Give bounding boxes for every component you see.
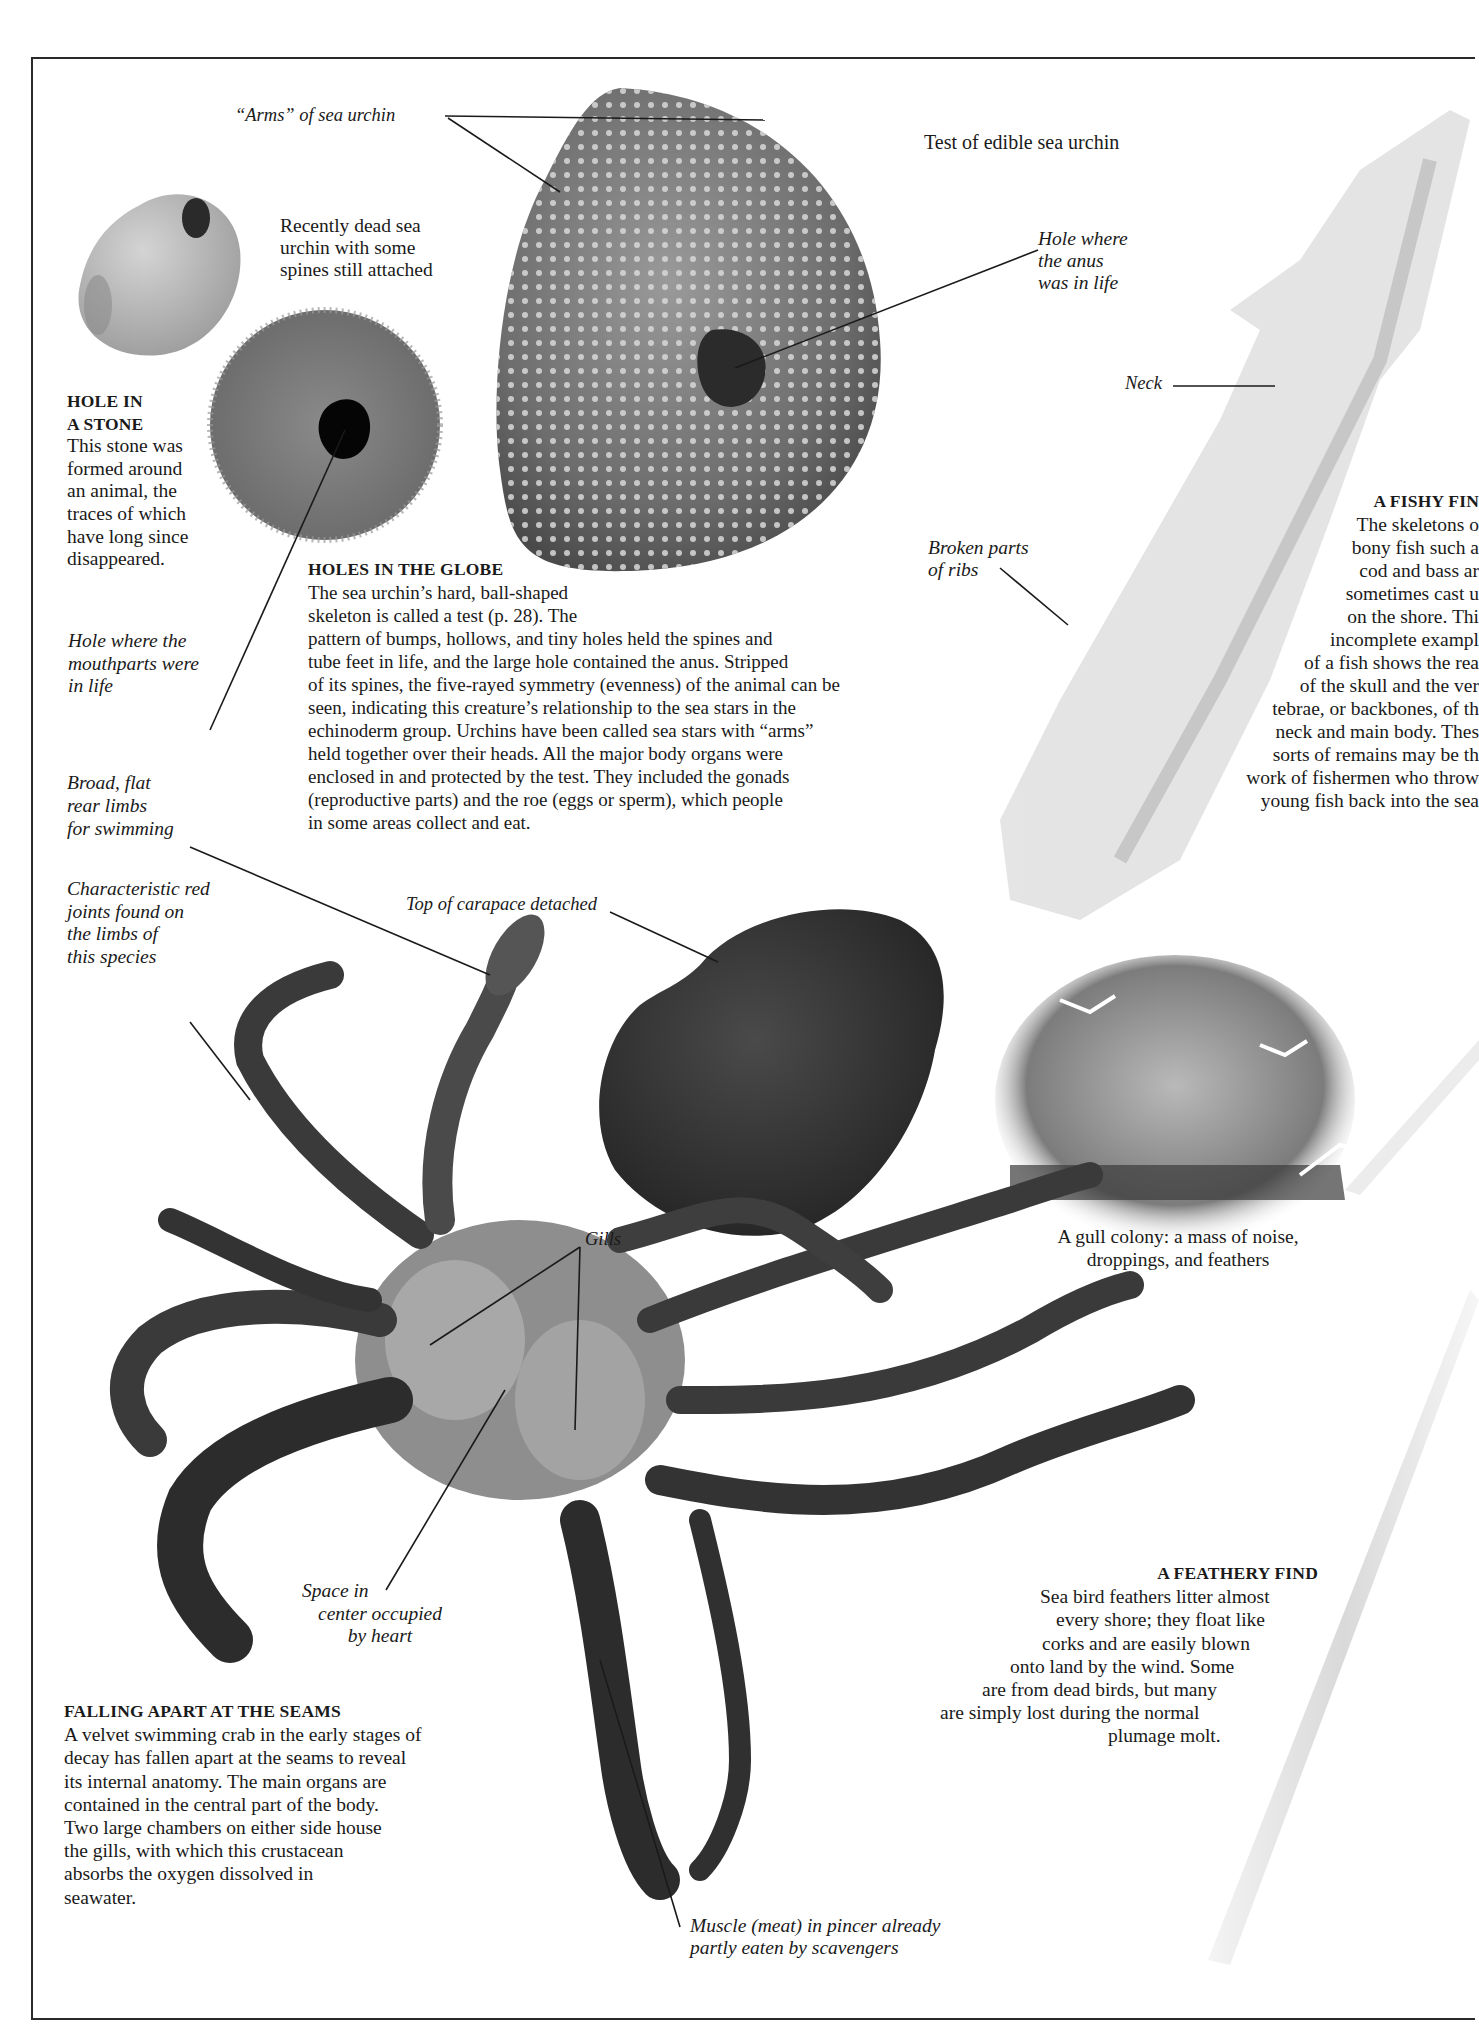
- label-muscle-in-pincer: Muscle (meat) in pincer already partly e…: [690, 1915, 941, 1959]
- section-heading: A FEATHERY FIND: [930, 1562, 1330, 1585]
- label-space-in-center: Space in center occupied by heart: [290, 1580, 470, 1648]
- label-arms-of-sea-urchin: “Arms” of sea urchin: [235, 104, 395, 126]
- section-falling-apart-at-the-seams: FALLING APART AT THE SEAMS A velvet swim…: [64, 1700, 421, 1909]
- gull-colony-image: [995, 955, 1375, 1245]
- label-hole-where-anus: Hole where the anus was in life: [1038, 228, 1128, 294]
- section-heading: HOLES IN THE GLOBE: [308, 558, 840, 581]
- carapace-image: [599, 909, 944, 1236]
- section-heading: A STONE: [67, 413, 188, 436]
- section-heading: A FISHY FIN: [1150, 490, 1479, 513]
- label-top-of-carapace-detached: Top of carapace detached: [406, 893, 597, 915]
- label-recently-dead-urchin: Recently dead sea urchin with some spine…: [280, 215, 433, 281]
- stone-image: [78, 194, 240, 355]
- label-hole-where-mouthparts: Hole where the mouthparts were in life: [68, 630, 199, 698]
- small-urchin-image: [210, 310, 440, 540]
- section-holes-in-the-globe: HOLES IN THE GLOBE The sea urchin’s hard…: [308, 558, 840, 834]
- label-broad-flat-rear-limbs: Broad, flat rear limbs for swimming: [67, 771, 174, 840]
- section-a-feathery-find: A FEATHERY FIND Sea bird feathers litter…: [930, 1562, 1330, 1748]
- label-neck: Neck: [1125, 372, 1162, 394]
- section-heading: FALLING APART AT THE SEAMS: [64, 1700, 421, 1723]
- large-urchin-test-image: [496, 88, 880, 571]
- label-test-of-edible-sea-urchin: Test of edible sea urchin: [924, 131, 1119, 154]
- section-a-fishy-find: A FISHY FIN The skeletons o bony fish su…: [1150, 490, 1479, 812]
- label-broken-parts-of-ribs: Broken parts of ribs: [928, 537, 1029, 581]
- label-gills: Gills: [585, 1228, 621, 1250]
- label-characteristic-red-joints: Characteristic red joints found on the l…: [67, 878, 210, 968]
- gull-colony-caption: A gull colony: a mass of noise, dropping…: [1008, 1226, 1348, 1271]
- section-hole-in-a-stone: HOLE IN A STONE This stone was formed ar…: [67, 390, 188, 571]
- section-heading: HOLE IN: [67, 390, 188, 413]
